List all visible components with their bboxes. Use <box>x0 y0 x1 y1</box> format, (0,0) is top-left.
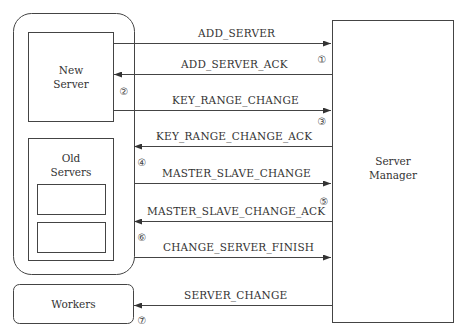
old-servers-label-line1: Old <box>62 152 81 164</box>
step-5-marker: ⑤ <box>318 196 330 208</box>
step-6-marker: ⑥ <box>136 232 148 244</box>
old-server-node-1 <box>37 184 106 215</box>
msg-key-range-change-ack: KEY_RANGE_CHANGE_ACK <box>156 130 312 142</box>
msg-change-server-finish: CHANGE_SERVER_FINISH <box>163 241 314 253</box>
step-4-marker: ④ <box>136 157 148 169</box>
server-manager-label-line2: Manager <box>369 169 417 181</box>
new-server-label-line1: New <box>59 64 83 76</box>
server-manager-label: Server Manager <box>333 154 453 182</box>
new-server-label: New Server <box>29 63 113 91</box>
old-server-node-2 <box>37 222 106 253</box>
msg-add-server: ADD_SERVER <box>198 27 275 39</box>
step-2-marker: ② <box>118 86 130 98</box>
msg-key-range-change: KEY_RANGE_CHANGE <box>172 94 299 106</box>
server-manager-box: Server Manager <box>332 20 454 323</box>
step-3-marker: ③ <box>316 116 328 128</box>
step-1-marker: ① <box>316 54 328 66</box>
msg-add-server-ack: ADD_SERVER_ACK <box>181 58 288 70</box>
workers-label: Workers <box>14 297 133 311</box>
msg-server-change: SERVER_CHANGE <box>184 289 287 301</box>
old-servers-label: Old Servers <box>29 151 113 179</box>
msg-master-slave-change: MASTER_SLAVE_CHANGE <box>162 167 311 179</box>
step-7-marker: ⑦ <box>136 315 148 327</box>
new-server-label-line2: Server <box>53 78 89 90</box>
old-servers-label-line2: Servers <box>51 166 92 178</box>
msg-master-slave-change-ack: MASTER_SLAVE_CHANGE_ACK <box>147 205 325 217</box>
new-server-box: New Server <box>28 32 114 122</box>
server-manager-label-line1: Server <box>375 155 411 167</box>
